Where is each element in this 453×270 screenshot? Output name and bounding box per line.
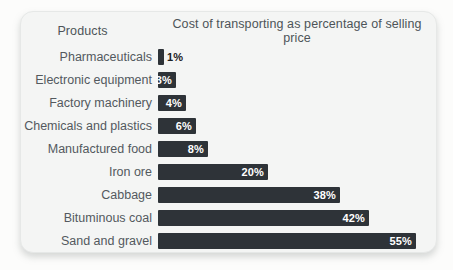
category-label: Chemicals and plastics [21,119,158,133]
bar: 6% [158,118,196,134]
bar-area: 3% [158,68,436,91]
products-column-header: Products [21,24,158,38]
value-label: 8% [188,143,204,155]
bar-area: 8% [158,137,436,160]
value-label: 4% [166,97,182,109]
category-label: Manufactured food [21,142,158,156]
value-label: 55% [389,235,412,247]
chart-header: Products Cost of transporting as percent… [21,20,436,42]
value-label: 1% [167,51,183,63]
page: Products Cost of transporting as percent… [0,0,453,270]
bar-area: 6% [158,114,436,137]
category-label: Cabbage [21,188,158,202]
chart-row: Sand and gravel55% [21,229,436,252]
bar-area: 38% [158,183,436,206]
bar-area: 42% [158,206,436,229]
bar-area: 20% [158,160,436,183]
bar: 55% [158,233,416,249]
chart-row: Manufactured food8% [21,137,436,160]
bar: 4% [158,95,186,111]
chart-row: Cabbage38% [21,183,436,206]
bar-area: 55% [158,229,436,252]
value-label: 42% [342,212,365,224]
chart-title: Cost of transporting as percentage of se… [158,17,436,45]
category-label: Sand and gravel [21,234,158,248]
chart-row: Bituminous coal42% [21,206,436,229]
bar: 38% [158,187,340,203]
category-label: Electronic equipment [21,73,158,87]
bar [158,49,164,65]
category-label: Factory machinery [21,96,158,110]
chart-row: Chemicals and plastics6% [21,114,436,137]
chart-row: Factory machinery4% [21,91,436,114]
bar: 8% [158,141,208,157]
category-label: Pharmaceuticals [21,50,158,64]
bar: 20% [158,164,268,180]
bar: 3% [158,72,176,88]
chart-row: Pharmaceuticals1% [21,45,436,68]
value-label: 38% [313,189,336,201]
value-label: 6% [176,120,192,132]
value-label: 20% [241,166,264,178]
chart-row: Electronic equipment3% [21,68,436,91]
chart-card: Products Cost of transporting as percent… [20,11,437,253]
category-label: Iron ore [21,165,158,179]
bar: 42% [158,210,369,226]
chart-row: Iron ore20% [21,160,436,183]
bar-rows: Pharmaceuticals1%Electronic equipment3%F… [21,45,436,252]
value-label: 3% [156,74,172,86]
bar-area: 4% [158,91,436,114]
bar-area: 1% [158,45,436,68]
category-label: Bituminous coal [21,211,158,225]
